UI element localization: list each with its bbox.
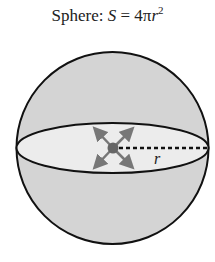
radius-label: r xyxy=(154,150,161,167)
sphere-diagram: r xyxy=(0,0,215,262)
center-point xyxy=(108,143,119,154)
